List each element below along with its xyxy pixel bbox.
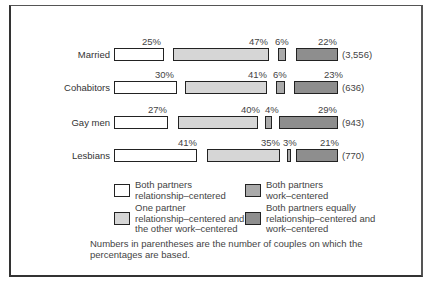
row-label-cohabitors: Cohabitors bbox=[10, 82, 110, 93]
legend-label-both-relationship: Both partners relationship–centered bbox=[135, 180, 226, 201]
pct-label: 25% bbox=[142, 36, 161, 47]
bar-married-both-equally bbox=[296, 48, 338, 61]
pct-label: 27% bbox=[148, 104, 167, 115]
count-gay-men: (943) bbox=[342, 117, 364, 128]
legend-swatch-both-equally bbox=[245, 212, 261, 225]
bar-gay-men-one-each bbox=[178, 116, 258, 129]
pct-label: 40% bbox=[241, 104, 260, 115]
bar-gay-men-both-equally bbox=[279, 116, 338, 129]
bar-lesbians-both-equally bbox=[296, 149, 338, 162]
pct-label: 23% bbox=[324, 69, 343, 80]
bar-married-both-work bbox=[278, 48, 286, 61]
legend-swatch-both-relationship bbox=[114, 184, 130, 197]
count-lesbians: (770) bbox=[342, 150, 364, 161]
legend-line: Both partners bbox=[266, 180, 328, 191]
legend-swatch-both-work bbox=[245, 184, 261, 197]
chart-frame bbox=[9, 5, 423, 277]
pct-label: 47% bbox=[249, 36, 268, 47]
bar-lesbians-one-each bbox=[207, 149, 280, 162]
legend-line: Both partners equally bbox=[266, 203, 375, 214]
pct-label: 41% bbox=[248, 69, 267, 80]
bar-cohabitors-both-relationship bbox=[114, 81, 177, 94]
bar-gay-men-both-work bbox=[265, 116, 272, 129]
pct-label: 6% bbox=[275, 36, 289, 47]
row-label-lesbians: Lesbians bbox=[10, 150, 110, 161]
legend-line: Both partners bbox=[135, 180, 226, 191]
legend-swatch-one-each bbox=[114, 212, 130, 225]
pct-label: 29% bbox=[318, 104, 337, 115]
bar-gay-men-both-relationship bbox=[114, 116, 168, 129]
legend-line: work–centered bbox=[266, 224, 375, 235]
bar-lesbians-both-work bbox=[287, 149, 291, 162]
pct-label: 4% bbox=[265, 104, 279, 115]
row-label-gay-men: Gay men bbox=[10, 117, 110, 128]
bar-cohabitors-both-work bbox=[276, 81, 285, 94]
count-cohabitors: (636) bbox=[342, 82, 364, 93]
footnote: Numbers in parentheses are the number of… bbox=[90, 238, 410, 260]
legend-line: One partner bbox=[135, 203, 244, 214]
pct-label: 21% bbox=[320, 137, 339, 148]
pct-label: 41% bbox=[178, 137, 197, 148]
legend-label-one-each: One partner relationship–centered and th… bbox=[135, 203, 244, 235]
bar-lesbians-both-relationship bbox=[114, 149, 197, 162]
legend-line: the other work–centered bbox=[135, 224, 244, 235]
bar-cohabitors-both-equally bbox=[294, 81, 338, 94]
pct-label: 3% bbox=[283, 137, 297, 148]
count-married: (3,556) bbox=[342, 49, 372, 60]
pct-label: 30% bbox=[155, 69, 174, 80]
legend-line: work–centered bbox=[266, 191, 328, 202]
row-label-married: Married bbox=[10, 49, 110, 60]
legend-label-both-work: Both partners work–centered bbox=[266, 180, 328, 201]
legend-line: relationship–centered bbox=[135, 191, 226, 202]
bar-married-both-relationship bbox=[114, 48, 164, 61]
bar-married-one-each bbox=[173, 48, 269, 61]
pct-label: 6% bbox=[273, 69, 287, 80]
legend-label-both-equally: Both partners equally relationship–cente… bbox=[266, 203, 375, 235]
pct-label: 22% bbox=[318, 36, 337, 47]
bar-cohabitors-one-each bbox=[185, 81, 267, 94]
pct-label: 35% bbox=[261, 137, 280, 148]
